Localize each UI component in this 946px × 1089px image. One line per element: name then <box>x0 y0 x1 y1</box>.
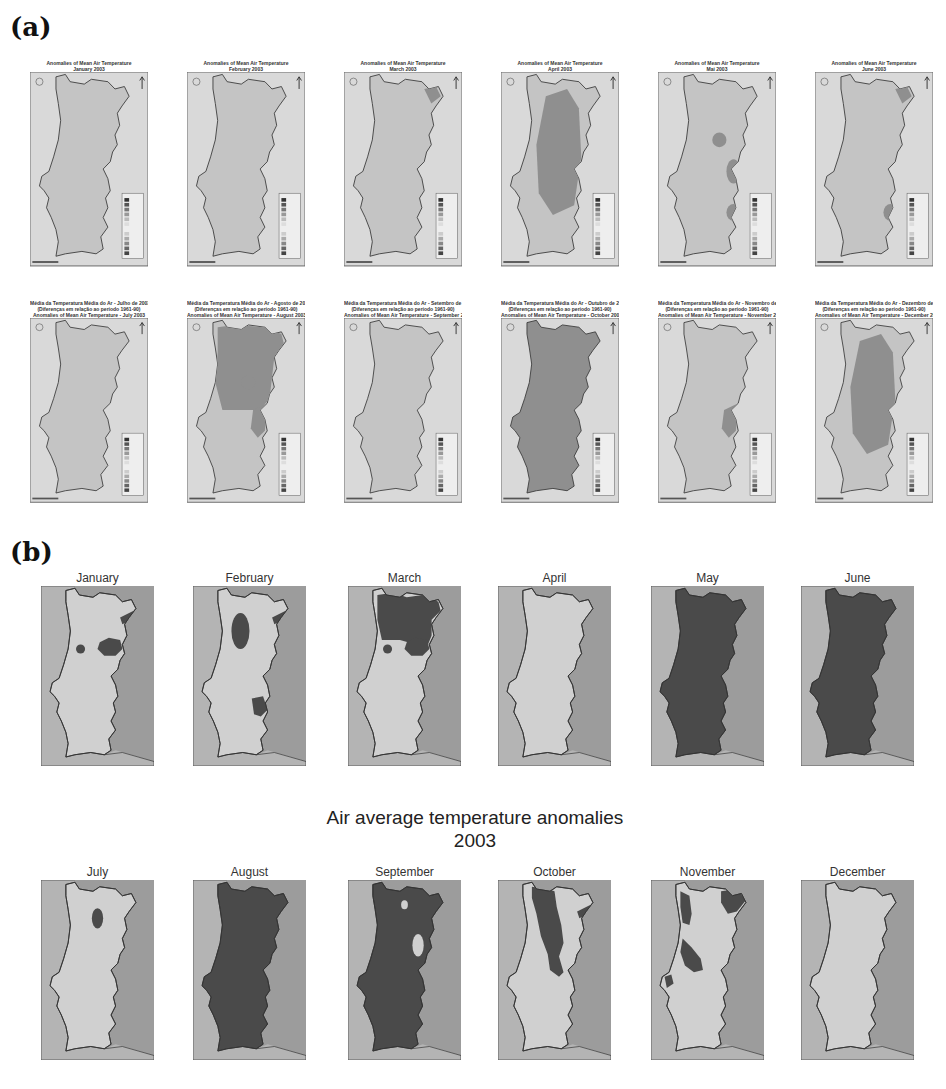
panel-a-map: Anomalies of Mean Air TemperatureApril 2… <box>501 60 619 272</box>
legend-swatch <box>281 488 286 491</box>
scale-bar <box>189 498 215 500</box>
legend-swatch <box>752 203 757 207</box>
anomaly-map <box>658 72 776 272</box>
legend <box>279 433 300 495</box>
legend-swatch <box>595 237 600 241</box>
legend-swatch <box>124 198 129 202</box>
anomaly-map <box>30 318 148 508</box>
legend-swatch <box>595 217 600 221</box>
legend-swatch <box>438 217 443 221</box>
legend-swatch <box>595 227 600 231</box>
legend <box>279 193 300 258</box>
anomaly-map <box>815 72 933 272</box>
legend-swatch <box>752 465 757 468</box>
anomaly-map <box>801 880 914 1060</box>
anomaly-map <box>344 318 462 508</box>
anomaly-map <box>348 880 461 1060</box>
anomaly-map <box>501 72 619 272</box>
legend-swatch <box>752 222 757 226</box>
legend-swatch <box>752 470 757 473</box>
legend-swatch <box>752 438 757 441</box>
legend-swatch <box>909 217 914 221</box>
legend-swatch <box>909 237 914 241</box>
legend-swatch <box>752 198 757 202</box>
anomaly-map <box>193 880 306 1060</box>
legend <box>436 193 457 258</box>
legend-swatch <box>124 208 129 212</box>
legend-swatch <box>124 465 129 468</box>
legend-swatch <box>438 442 443 445</box>
legend-swatch <box>752 452 757 455</box>
legend-swatch <box>438 470 443 473</box>
scale-bar <box>503 498 529 500</box>
legend-swatch <box>438 242 443 246</box>
legend-swatch <box>124 479 129 482</box>
panel-a-map: Média da Temperatura Média do Ar - Setem… <box>344 300 462 508</box>
legend-swatch <box>595 447 600 450</box>
anomaly-map <box>658 318 776 508</box>
legend-swatch <box>752 227 757 231</box>
legend-swatch <box>281 247 286 251</box>
legend-swatch <box>909 456 914 459</box>
legend-swatch <box>595 479 600 482</box>
legend-swatch <box>595 470 600 473</box>
legend <box>907 433 928 495</box>
legend-swatch <box>438 484 443 487</box>
legend-swatch <box>281 479 286 482</box>
legend-swatch <box>438 208 443 212</box>
anomaly-map <box>498 880 611 1060</box>
center-title-line-2: 2003 <box>250 829 700 852</box>
legend-swatch <box>438 479 443 482</box>
panel-b-month-map: December <box>801 864 914 1060</box>
legend-swatch <box>909 222 914 226</box>
scale-bar <box>346 498 372 500</box>
scale-bar <box>660 261 686 263</box>
legend-swatch <box>438 465 443 468</box>
legend-swatch <box>909 479 914 482</box>
legend-swatch <box>124 484 129 487</box>
anomaly-map <box>815 318 933 508</box>
legend <box>750 193 771 258</box>
month-title: November <box>651 864 764 880</box>
legend-swatch <box>909 438 914 441</box>
panel-a-map: Média da Temperatura Média do Ar - Julho… <box>30 300 148 508</box>
legend-swatch <box>909 227 914 231</box>
legend-swatch <box>595 222 600 226</box>
legend-swatch <box>909 475 914 478</box>
legend-swatch <box>595 484 600 487</box>
legend-swatch <box>281 452 286 455</box>
month-title: October <box>498 864 611 880</box>
legend-swatch <box>281 203 286 207</box>
legend-swatch <box>281 208 286 212</box>
panel-b-label: (b) <box>10 537 53 567</box>
legend-swatch <box>124 452 129 455</box>
legend-swatch <box>595 208 600 212</box>
legend-swatch <box>909 242 914 246</box>
panel-a-label: (a) <box>10 12 51 42</box>
legend-swatch <box>281 227 286 231</box>
legend-swatch <box>438 461 443 464</box>
legend-swatch <box>124 227 129 231</box>
scale-bar <box>32 261 58 263</box>
panel-b-month-map: May <box>651 570 764 766</box>
anomaly-map <box>344 72 462 272</box>
legend-swatch <box>124 232 129 236</box>
map-title-line: Anomalies of Mean Air Temperature - Augu… <box>187 312 305 318</box>
legend-swatch <box>124 251 129 255</box>
legend <box>593 193 614 258</box>
panel-b-month-map: June <box>801 570 914 766</box>
month-title: March <box>348 570 461 586</box>
legend-swatch <box>124 237 129 241</box>
legend-swatch <box>909 470 914 473</box>
legend-swatch <box>752 213 757 217</box>
legend-swatch <box>438 438 443 441</box>
panel-a-map: Anomalies of Mean Air TemperatureFebruar… <box>187 60 305 272</box>
month-title: September <box>348 864 461 880</box>
legend <box>750 433 771 495</box>
anomaly-map <box>498 586 611 766</box>
legend-swatch <box>752 484 757 487</box>
legend-swatch <box>438 456 443 459</box>
legend-swatch <box>438 203 443 207</box>
legend-swatch <box>595 488 600 491</box>
legend-swatch <box>752 237 757 241</box>
